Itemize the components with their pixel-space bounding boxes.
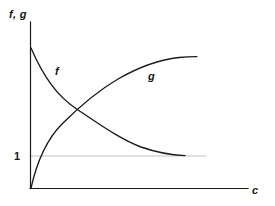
y-tick-label-1: 1	[14, 151, 20, 162]
curve-label-g: g	[148, 71, 155, 82]
figure-root: f, g c 1 f g	[0, 0, 275, 206]
curve-label-f: f	[55, 66, 59, 77]
plot-canvas	[0, 0, 275, 206]
y-axis-label: f, g	[9, 9, 27, 20]
x-axis-label: c	[252, 185, 258, 196]
